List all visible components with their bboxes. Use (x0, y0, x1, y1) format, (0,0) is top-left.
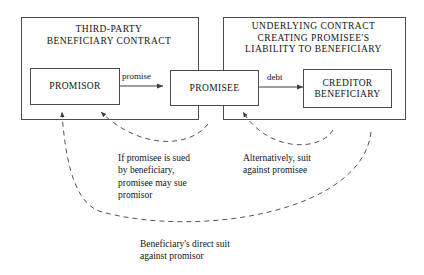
node-creditor-beneficiary-label: CREDITOR (322, 78, 372, 89)
caption-alternative-suit: Alternatively, suit against promisee (243, 152, 311, 177)
caption-line: against promisor (140, 250, 230, 262)
caption-line: Alternatively, suit (243, 152, 311, 164)
third-party-beneficiary-diagram: THIRD-PARTY BENEFICIARY CONTRACT UNDERLY… (0, 0, 424, 275)
node-promisee-label: PROMISEE (190, 83, 240, 94)
caption-line: promisee may sue (118, 177, 190, 189)
node-creditor-beneficiary-label: BENEFICIARY (314, 89, 380, 100)
caption-line: promisor (118, 189, 190, 201)
caption-promisee-sued: If promisee is sued by beneficiary, prom… (118, 152, 190, 202)
node-promisor-label: PROMISOR (49, 81, 100, 92)
edge-label-debt: debt (266, 72, 284, 82)
edge-beneficiary-direct-suit (62, 112, 371, 222)
container-title-line: LIABILITY TO BENEFICIARY (223, 44, 404, 56)
container-title-line: BENEFICIARY CONTRACT (21, 36, 197, 48)
caption-line: by beneficiary, (118, 164, 190, 176)
container-underlying-contract-title: UNDERLYING CONTRACT CREATING PROMISEE'S … (223, 21, 404, 56)
container-title-line: THIRD-PARTY (21, 24, 197, 36)
container-title-line: CREATING PROMISEE'S (223, 33, 404, 45)
caption-line: against promisee (243, 164, 311, 176)
node-promisor: PROMISOR (30, 68, 120, 105)
caption-line: If promisee is sued (118, 152, 190, 164)
edge-label-promise: promise (121, 71, 152, 81)
node-promisee: PROMISEE (170, 70, 259, 106)
caption-direct-suit: Beneficiary's direct suit against promis… (140, 238, 230, 263)
container-third-party-contract-title: THIRD-PARTY BENEFICIARY CONTRACT (21, 24, 197, 47)
node-creditor-beneficiary: CREDITOR BENEFICIARY (303, 69, 392, 108)
caption-line: Beneficiary's direct suit (140, 238, 230, 250)
container-title-line: UNDERLYING CONTRACT (223, 21, 404, 33)
